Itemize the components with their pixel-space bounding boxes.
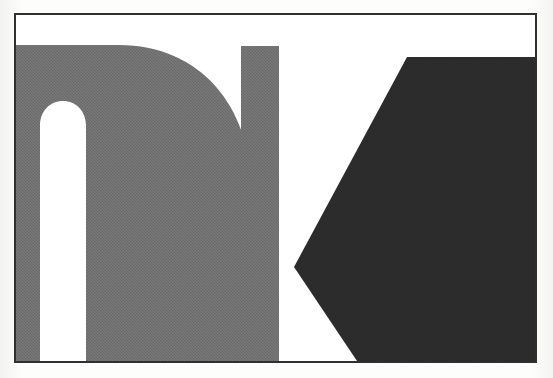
scanned-page: nIK: [0, 0, 553, 378]
artwork-frame: [14, 13, 537, 363]
letter-k-wedge: [294, 57, 535, 361]
letter-i-bar: [241, 46, 279, 361]
letter-n: [16, 45, 251, 361]
artboard: [16, 15, 535, 361]
